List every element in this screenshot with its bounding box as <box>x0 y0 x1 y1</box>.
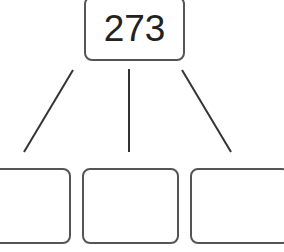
child-node-right[interactable] <box>190 168 284 244</box>
edge-left <box>24 70 73 152</box>
child-node-left[interactable] <box>0 168 71 244</box>
root-node: 273 <box>84 0 185 61</box>
root-value: 273 <box>104 8 166 50</box>
child-node-middle[interactable] <box>82 168 179 244</box>
edge-right <box>182 70 231 152</box>
